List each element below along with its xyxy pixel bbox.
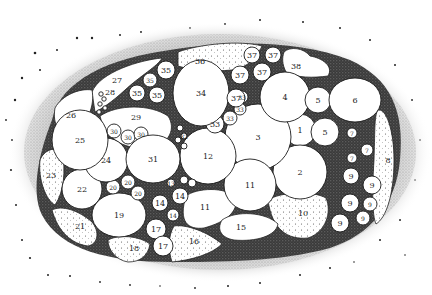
compartment-label: 37 [231, 94, 241, 103]
compartment-label: 37 [257, 68, 267, 77]
compartment-label: 35 [152, 91, 162, 100]
compartment-label: 2 [297, 168, 302, 177]
compartment-label: 35 [161, 66, 171, 75]
compartment-label: 37 [268, 51, 278, 60]
compartment-label: 28 [105, 88, 115, 97]
compartment-label: 7 [350, 130, 354, 137]
compartment-label: 1 [297, 126, 302, 135]
compartment-label: 11 [245, 181, 255, 190]
compartment-label: 7 [365, 147, 369, 154]
compartment-label: 5 [315, 96, 320, 105]
compartment-label: 30 [124, 134, 132, 141]
compartment-label: 12 [203, 152, 213, 161]
compartment-label: 37 [235, 71, 245, 80]
compartment-label: 14 [175, 192, 185, 201]
compartment-label: 17 [151, 225, 161, 234]
compartment-label: 26 [66, 111, 76, 120]
compartment-label: 10 [298, 209, 308, 218]
compartment-label: 31 [148, 155, 158, 164]
compartment-label: 30 [110, 128, 118, 135]
compartment-label: 33 [226, 115, 234, 122]
compartment-label: 20 [134, 190, 142, 197]
compartment-label: 35 [146, 77, 154, 84]
compartment-label: 34 [196, 89, 206, 98]
compartment-label: 9 [369, 181, 374, 190]
compartment-label: 22 [77, 185, 87, 194]
compartment-label: 24 [101, 156, 111, 165]
compartment-label: 15 [236, 223, 246, 232]
compartment-label: 9 [361, 215, 365, 222]
diagram-canvas: 1234556777899999910111112131414141516171… [0, 0, 432, 295]
compartment-label: 33 [236, 106, 244, 113]
compartment-label: 32 [180, 133, 188, 140]
compartment-label: 19 [114, 211, 124, 220]
compartment-label: 30 [137, 131, 145, 138]
diagram-svg: 1234556777899999910111112131414141516171… [0, 0, 432, 295]
compartment-label: 27 [112, 76, 122, 85]
compartment-label: 20 [109, 184, 117, 191]
compartment-label: 18 [129, 244, 139, 253]
compartment-label: 8 [385, 156, 390, 165]
compartment-label: 25 [75, 136, 85, 145]
compartment-label: 4 [282, 93, 287, 102]
compartment-label: 7 [350, 155, 354, 162]
compartment-label: 14 [155, 199, 165, 208]
compartment-label: 33 [210, 120, 220, 129]
compartment-label: 35 [132, 89, 142, 98]
compartment-label: 21 [75, 222, 85, 231]
compartment-label: 9 [368, 201, 372, 208]
compartment-label: 3 [255, 133, 260, 142]
compartment-label: 14 [169, 212, 177, 219]
compartment-label: 38 [291, 62, 301, 71]
compartment-label: 36 [195, 57, 205, 66]
compartment-label: 5 [322, 128, 327, 137]
compartment-label: 37 [247, 51, 257, 60]
compartment-label: 11 [200, 203, 210, 212]
compartment-label: 6 [352, 96, 357, 105]
compartment-label: 9 [347, 199, 352, 208]
compartment-label: 23 [46, 171, 56, 180]
compartment-label: 16 [189, 237, 199, 246]
compartment-label: 17 [158, 242, 168, 251]
compartment-label: 13 [167, 180, 175, 187]
compartment-label: 29 [131, 113, 141, 122]
compartment-label: 9 [337, 219, 342, 228]
compartment-label: 9 [348, 172, 353, 181]
compartment-label: 20 [124, 179, 132, 186]
